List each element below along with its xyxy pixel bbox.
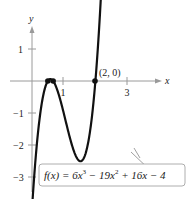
function-graph: x y 1 3 1 −1 −2 −3 f(x) = 6x3 − 19x2 + 1… bbox=[0, 0, 188, 199]
y-axis-arrow-icon bbox=[30, 26, 35, 33]
x-axis-arrow-icon bbox=[155, 79, 162, 84]
y-tick-label-1: 1 bbox=[18, 44, 23, 55]
callout-leader bbox=[134, 148, 140, 158]
y-axis-label: y bbox=[28, 13, 34, 24]
y-tick-label-m1: −1 bbox=[13, 108, 24, 119]
x-axis-label: x bbox=[164, 75, 170, 86]
function-label: f(x) = 6x3 − 19x2 + 16x − 4 bbox=[44, 168, 166, 182]
point-2-0 bbox=[92, 78, 98, 84]
point-label-2-0: (2, 0) bbox=[99, 67, 121, 79]
y-tick-label-m3: −3 bbox=[13, 172, 24, 183]
x-tick-label-3: 3 bbox=[125, 87, 130, 98]
x-tick-label-1: 1 bbox=[61, 87, 66, 98]
y-tick-label-m2: −2 bbox=[13, 140, 24, 151]
